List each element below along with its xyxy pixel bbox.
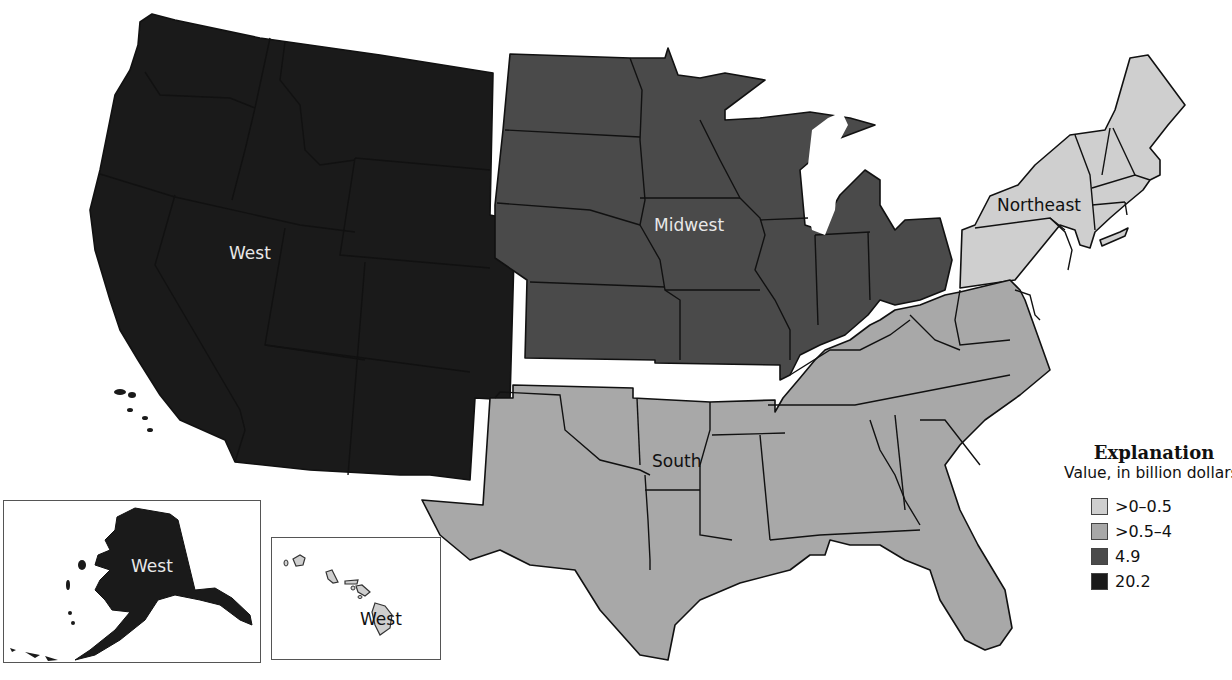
legend-items: >0–0.5 >0.5–4 4.9 20.2 (1091, 494, 1232, 593)
hawaii-inset (271, 537, 441, 660)
legend-swatch-icon (1091, 573, 1108, 590)
label-hawaii-west: West (360, 609, 402, 629)
legend-label: 20.2 (1115, 572, 1151, 591)
region-northeast (960, 55, 1185, 288)
legend-item: 4.9 (1091, 544, 1232, 568)
legend-label: >0–0.5 (1115, 497, 1172, 516)
alaska-inset (3, 500, 261, 663)
legend-title: Explanation (1076, 442, 1232, 463)
legend-item: 20.2 (1091, 569, 1232, 593)
label-south: South (652, 451, 701, 471)
legend-subtitle: Value, in billion dollars (1064, 464, 1232, 482)
legend-label: 4.9 (1115, 547, 1140, 566)
label-northeast: Northeast (997, 195, 1081, 215)
legend: Explanation Value, in billion dollars >0… (1068, 442, 1232, 594)
legend-item: >0.5–4 (1091, 519, 1232, 543)
legend-label: >0.5–4 (1115, 522, 1172, 541)
legend-swatch-icon (1091, 548, 1108, 565)
legend-item: >0–0.5 (1091, 494, 1232, 518)
label-alaska-west: West (131, 556, 173, 576)
legend-swatch-icon (1091, 523, 1108, 540)
legend-swatch-icon (1091, 498, 1108, 515)
label-west: West (229, 243, 271, 263)
region-west (90, 14, 515, 480)
label-midwest: Midwest (654, 215, 724, 235)
